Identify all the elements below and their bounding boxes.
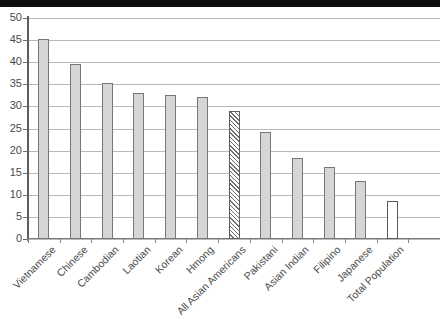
x-axis-tick xyxy=(218,239,219,243)
y-axis-tick-label: 40 xyxy=(2,56,22,67)
bar-total-population xyxy=(387,201,398,239)
x-axis-tick xyxy=(408,239,409,243)
y-axis-tick-label: 50 xyxy=(2,12,22,23)
bar-filipino xyxy=(324,167,335,239)
x-axis-tick xyxy=(377,239,378,243)
x-axis-tick xyxy=(155,239,156,243)
x-axis-tick xyxy=(313,239,314,243)
bar-chinese xyxy=(70,64,81,239)
bar-korean xyxy=(165,95,176,239)
bar-laotian xyxy=(133,93,144,239)
x-axis-label-text: Laotian xyxy=(121,244,153,276)
bar-hmong xyxy=(197,97,208,239)
y-axis-tick-label: 25 xyxy=(2,123,22,134)
bar-vietnamese xyxy=(38,39,49,239)
x-axis-tick xyxy=(28,239,29,243)
gridline xyxy=(28,239,440,240)
y-axis-tick-label: 45 xyxy=(2,34,22,45)
x-axis-label-laotian: Laotian xyxy=(121,244,153,276)
y-axis-tick-labels: 50454035302520151050 xyxy=(0,0,22,319)
x-axis-tick xyxy=(123,239,124,243)
x-axis-tick xyxy=(60,239,61,243)
bar-cambodian xyxy=(102,83,113,239)
y-axis-tick-label: 15 xyxy=(2,167,22,178)
y-axis-tick-label: 0 xyxy=(2,233,22,244)
page-edge-artifact xyxy=(0,0,440,7)
bar-japanese xyxy=(355,181,366,239)
bar-pakistani xyxy=(260,132,271,239)
bar-chart: 50454035302520151050 VietnameseChineseCa… xyxy=(0,0,440,319)
x-axis-label-text: Korean xyxy=(153,244,185,276)
bar-all-asian-americans xyxy=(229,111,240,239)
bar-asian-indian xyxy=(292,158,303,239)
y-axis-tick-label: 20 xyxy=(2,145,22,156)
x-axis-tick xyxy=(91,239,92,243)
x-axis-tick xyxy=(186,239,187,243)
y-axis-tick-label: 30 xyxy=(2,100,22,111)
y-axis-tick-label: 5 xyxy=(2,211,22,222)
x-axis-label-korean: Korean xyxy=(153,244,185,276)
bars-layer xyxy=(28,18,440,239)
x-axis-tick xyxy=(345,239,346,243)
y-axis-tick-label: 35 xyxy=(2,78,22,89)
x-axis-tick xyxy=(282,239,283,243)
y-axis-tick-label: 10 xyxy=(2,189,22,200)
x-axis-tick xyxy=(250,239,251,243)
